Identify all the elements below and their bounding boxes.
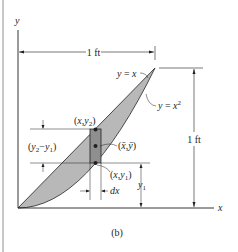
arrowhead	[42, 125, 45, 129]
y-axis-label: y	[14, 15, 20, 26]
arrowhead	[149, 51, 154, 54]
width-dimension-label: 1 ft	[87, 47, 101, 58]
figure-caption: (b)	[111, 227, 123, 239]
leader-line	[97, 165, 110, 172]
arrowhead	[101, 190, 105, 193]
point-top	[94, 128, 98, 132]
height-dimension-label: 1 ft	[187, 134, 201, 145]
arrowhead	[19, 51, 24, 54]
arrowhead	[42, 163, 45, 167]
arrowhead	[140, 164, 143, 168]
arrowhead	[193, 202, 196, 207]
label-point-top: (x,y2)	[74, 115, 96, 128]
label-point-bottom: (x,y1)	[110, 169, 132, 182]
arrowhead	[193, 69, 196, 74]
arrowhead	[140, 203, 143, 207]
curve-label-y-equals-x-squared: y = x2	[157, 99, 182, 111]
point-centroid	[94, 144, 98, 148]
label-centroid: (x̄,ȳ)	[118, 140, 136, 152]
curve-y-equals-x	[18, 68, 155, 208]
leader-line	[146, 94, 156, 106]
centroid-diagram: y x 1 ft 1 ft y = x y = x2 (x,y2) (x̄,ȳ)…	[0, 0, 238, 252]
y1-label: y1	[137, 179, 146, 192]
arrowhead	[86, 190, 90, 193]
point-bottom	[94, 161, 98, 165]
x-axis-label: x	[217, 202, 223, 213]
curve-label-y-equals-x: y = x	[116, 68, 137, 79]
dx-label: dx	[110, 185, 120, 196]
strip-height-label: (y2−y1)	[28, 141, 56, 154]
